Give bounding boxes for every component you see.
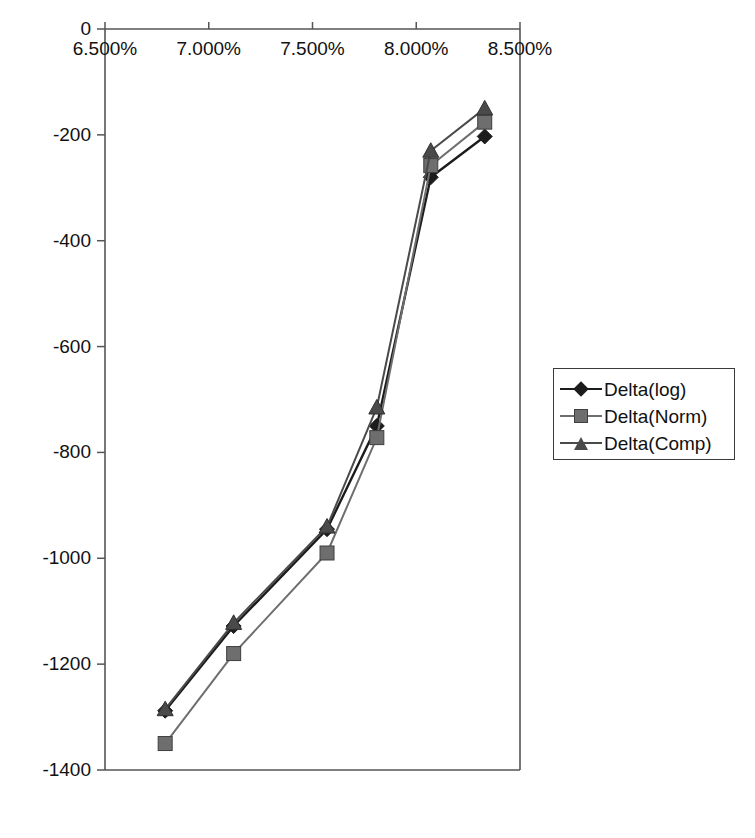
y-tick-label: -1400 bbox=[0, 759, 91, 781]
legend-swatch bbox=[558, 405, 604, 427]
data-point-square bbox=[158, 737, 172, 751]
legend-item-delta-norm[interactable]: Delta(Norm) bbox=[558, 402, 707, 430]
series-line bbox=[165, 108, 485, 709]
x-tick-label: 7.000% bbox=[177, 38, 241, 60]
x-tick-label: 8.500% bbox=[488, 38, 552, 60]
legend-item-delta-comp[interactable]: Delta(Comp) bbox=[558, 429, 712, 457]
chart-legend: Delta(log)Delta(Norm)Delta(Comp) bbox=[553, 368, 735, 460]
legend-label: Delta(Norm) bbox=[604, 407, 707, 426]
y-tick-label: -1000 bbox=[0, 547, 91, 569]
data-point-square bbox=[320, 546, 334, 560]
data-point-square bbox=[370, 431, 384, 445]
y-tick-label: -400 bbox=[0, 230, 91, 252]
y-tick-label: -1200 bbox=[0, 653, 91, 675]
y-tick-label: -200 bbox=[0, 124, 91, 146]
y-tick-label: -600 bbox=[0, 336, 91, 358]
series-delta-log bbox=[158, 129, 493, 718]
legend-item-delta-log[interactable]: Delta(log) bbox=[558, 375, 686, 403]
x-tick-label: 8.000% bbox=[384, 38, 448, 60]
legend-marker-square bbox=[574, 409, 588, 423]
y-tick-label: 0 bbox=[0, 18, 91, 40]
data-point-square bbox=[478, 115, 492, 129]
data-point-square bbox=[227, 647, 241, 661]
y-tick-label: -800 bbox=[0, 441, 91, 463]
series-line bbox=[165, 136, 485, 710]
legend-marker-diamond bbox=[573, 381, 588, 396]
data-point-triangle bbox=[423, 143, 439, 158]
x-tick-label: 6.500% bbox=[73, 38, 137, 60]
legend-label: Delta(log) bbox=[604, 380, 686, 399]
chart-container: 0-200-400-600-800-1000-1200-1400 6.500%7… bbox=[0, 0, 755, 838]
data-point-triangle bbox=[319, 519, 335, 534]
legend-label: Delta(Comp) bbox=[604, 434, 712, 453]
data-point-triangle bbox=[477, 100, 493, 115]
series-delta-comp bbox=[157, 100, 493, 715]
legend-swatch bbox=[558, 378, 604, 400]
legend-swatch bbox=[558, 432, 604, 454]
x-tick-label: 7.500% bbox=[280, 38, 344, 60]
legend-marker-triangle bbox=[574, 437, 588, 450]
